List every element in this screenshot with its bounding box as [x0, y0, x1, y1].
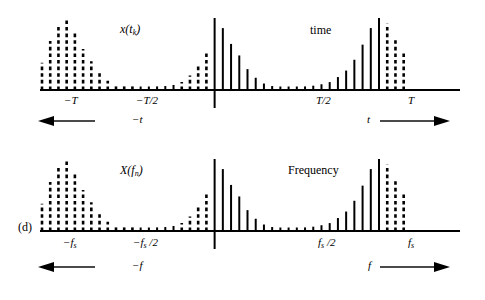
figure-root: (d) x(tk) time −T −T/2 T/2 T −t t X(fn) … [0, 0, 485, 300]
tick-label-minus-fs: −fs [63, 236, 77, 250]
tick-label-T-half: T/2 [316, 94, 331, 106]
frequency-domain-panel: X(fn) Frequency −fs −fs /2 fs /2 fs −f f [0, 141, 485, 300]
frequency-domain-title: Frequency [288, 163, 339, 178]
tick-fs-half-tail: /2 [324, 236, 335, 248]
tick-label-minus-fs-half: −fs /2 [133, 236, 158, 250]
tick-label-minus-T: −T [64, 94, 78, 106]
time-left-arrow-label: −t [132, 113, 142, 125]
tick-minus-fs-sub: s [73, 241, 76, 250]
time-domain-stem-plot [0, 0, 485, 140]
time-domain-title: time [310, 23, 331, 38]
time-signal-label-main: x(t [120, 22, 133, 36]
frequency-right-arrow-label: f [368, 259, 371, 271]
frequency-domain-stem-plot [0, 141, 485, 300]
freq-signal-label-main: X(f [120, 163, 135, 177]
time-right-arrow-label: t [367, 113, 370, 125]
frequency-left-arrow-head [38, 262, 54, 272]
time-signal-label-close: ) [136, 22, 140, 36]
frequency-left-arrow-label: −f [132, 259, 142, 271]
frequency-right-arrow-head [434, 262, 450, 272]
frequency-signal-label: X(fn) [120, 163, 143, 178]
tick-label-fs: fs [408, 236, 414, 250]
tick-minus-fs-main: −f [63, 236, 73, 248]
tick-fs-sub: s [411, 241, 414, 250]
tick-label-fs-half: fs /2 [318, 236, 336, 250]
time-domain-panel: x(tk) time −T −T/2 T/2 T −t t [0, 0, 485, 140]
tick-minus-fs-half-tail: /2 [147, 236, 158, 248]
time-right-arrow-head [434, 116, 450, 126]
time-signal-label: x(tk) [120, 22, 140, 37]
tick-minus-fs-half-main: −f [133, 236, 143, 248]
freq-signal-label-close: ) [139, 163, 143, 177]
tick-label-minus-T-half: −T/2 [136, 94, 158, 106]
time-left-arrow-head [38, 116, 54, 126]
tick-label-T: T [408, 94, 414, 106]
